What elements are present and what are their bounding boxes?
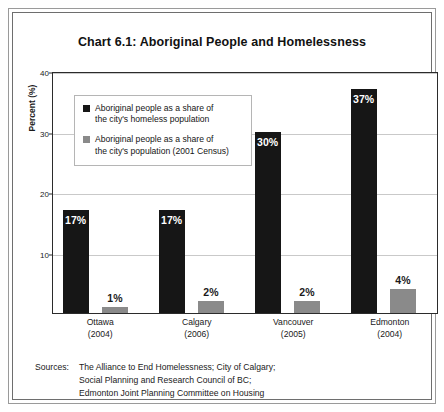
y-tick-20: 20 <box>40 190 49 199</box>
chart-title: Chart 6.1: Aboriginal People and Homeles… <box>13 35 431 49</box>
bar-group-vancouver: 30% 2% <box>245 73 341 313</box>
chart-figure-inner-frame: Chart 6.1: Aboriginal People and Homeles… <box>12 12 432 400</box>
bar-homeless-edmonton: 37% <box>351 89 377 313</box>
bar-group-edmonton: 37% 4% <box>341 73 437 313</box>
x-category-city: Vancouver <box>273 317 313 327</box>
bar-population-calgary: 2% <box>198 301 224 313</box>
y-axis-label: Percent (%) <box>27 48 37 168</box>
bar-homeless-vancouver: 30% <box>255 132 281 314</box>
x-category-edmonton: Edmonton (2004) <box>342 316 439 341</box>
plot-area: 40 30 20 10 17% 1% <box>52 72 438 314</box>
bar-value-label: 37% <box>353 93 374 105</box>
x-category-year: (2006) <box>184 329 209 339</box>
legend-swatch-icon-population <box>83 136 90 143</box>
sources-text: The Alliance to End Homelessness; City o… <box>79 361 415 400</box>
bar-value-label: 17% <box>161 214 182 226</box>
x-category-year: (2005) <box>281 329 306 339</box>
legend-entry-population-share: Aboriginal people as a share of the city… <box>83 134 243 156</box>
legend-label-homeless: Aboriginal people as a share of the city… <box>95 103 213 125</box>
legend-label-population: Aboriginal people as a share of the city… <box>95 134 229 156</box>
bar-value-label: 30% <box>257 136 278 148</box>
bar-value-label: 2% <box>299 286 314 298</box>
plot-wrapper: Percent (%) 40 30 20 10 17% <box>52 72 438 314</box>
legend-label-line1: Aboriginal people as a share of <box>95 134 213 144</box>
x-category-city: Ottawa <box>87 317 114 327</box>
legend-entry-homeless-share: Aboriginal people as a share of the city… <box>83 103 243 125</box>
sources-label: Sources: <box>35 361 79 400</box>
bar-population-ottawa: 1% <box>102 307 128 313</box>
bar-value-label: 4% <box>395 274 410 286</box>
x-category-year: (2004) <box>377 329 402 339</box>
sources-note: Sources: The Alliance to End Homelessnes… <box>35 361 415 400</box>
chart-legend: Aboriginal people as a share of the city… <box>74 95 252 166</box>
legend-label-line1: Aboriginal people as a share of <box>95 103 213 113</box>
x-axis-labels: Ottawa (2004) Calgary (2006) Vancouver (… <box>52 316 438 341</box>
bar-value-label: 1% <box>107 292 122 304</box>
y-tick-40: 40 <box>40 69 49 78</box>
bar-value-label: 17% <box>65 214 86 226</box>
sources-line-1: The Alliance to End Homelessness; City o… <box>79 361 415 374</box>
bar-population-edmonton: 4% <box>390 289 416 313</box>
y-tick-10: 10 <box>40 250 49 259</box>
legend-label-line2: the city's population (2001 Census) <box>95 146 229 156</box>
x-category-city: Edmonton <box>370 317 409 327</box>
chart-figure-frame: Chart 6.1: Aboriginal People and Homeles… <box>8 8 436 404</box>
x-category-vancouver: Vancouver (2005) <box>245 316 342 341</box>
bar-population-vancouver: 2% <box>294 301 320 313</box>
x-category-city: Calgary <box>182 317 212 327</box>
legend-swatch-icon-homeless <box>83 105 90 112</box>
sources-line-3: Edmonton Joint Planning Committee on Hou… <box>79 387 415 400</box>
bar-homeless-ottawa: 17% <box>63 210 89 313</box>
y-tick-30: 30 <box>40 129 49 138</box>
x-category-calgary: Calgary (2006) <box>149 316 246 341</box>
sources-line-2: Social Planning and Research Council of … <box>79 374 415 387</box>
bar-homeless-calgary: 17% <box>159 210 185 313</box>
legend-label-line2: the city's homeless population <box>95 114 209 124</box>
x-category-year: (2004) <box>88 329 113 339</box>
x-category-ottawa: Ottawa (2004) <box>52 316 149 341</box>
bar-value-label: 2% <box>203 286 218 298</box>
